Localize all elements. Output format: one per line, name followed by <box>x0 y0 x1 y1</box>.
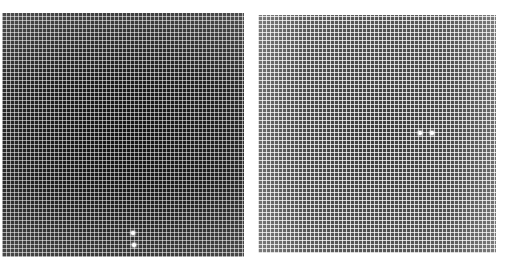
right-bright-spot-2 <box>430 131 434 135</box>
left-bright-spot-2 <box>132 243 136 247</box>
left-grid-image <box>2 13 244 257</box>
right-grid-image <box>258 15 496 253</box>
left-bright-spot-1 <box>131 231 135 235</box>
right-bright-spot-1 <box>418 131 422 135</box>
